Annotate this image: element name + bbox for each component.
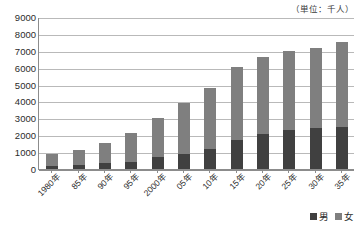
bar-segment-male (204, 149, 216, 169)
x-tick-mark (315, 170, 316, 173)
chart-legend: 男女 (310, 209, 354, 223)
x-tick-mark (341, 170, 342, 173)
bar-segment-male (310, 128, 322, 169)
x-tick-mark (288, 170, 289, 173)
x-tick-mark (262, 170, 263, 173)
bar-segment-male (125, 162, 137, 169)
y-tick-label: 9000 (15, 13, 36, 23)
y-tick-label: 2000 (15, 131, 36, 141)
bar-group (231, 67, 243, 169)
x-axis-labels: 1980年85年90年95年2000年05年10年15年20年25年30年35年 (38, 172, 354, 212)
x-tick-mark (157, 170, 158, 173)
y-tick-label: 8000 (15, 30, 36, 40)
unit-caption: （単位：千人） (291, 2, 354, 14)
bar-segment-female (283, 51, 295, 130)
y-tick-label: 0 (31, 165, 36, 175)
bar-segment-male (283, 130, 295, 169)
legend-swatch-icon (335, 213, 342, 220)
bar-segment-female (257, 57, 269, 134)
legend-label: 女 (344, 209, 354, 223)
legend-swatch-icon (310, 213, 317, 220)
bar-group (204, 88, 216, 169)
y-tick-label: 6000 (15, 64, 36, 74)
bar-segment-female (310, 48, 322, 128)
plot-area (38, 18, 354, 170)
bar-segment-male (231, 140, 243, 169)
x-tick-mark (183, 170, 184, 173)
bar-segment-male (73, 165, 85, 169)
x-tick-mark (236, 170, 237, 173)
gridline-0 (39, 170, 354, 171)
y-tick-label: 3000 (15, 115, 36, 125)
bar-segment-female (73, 150, 85, 165)
bar-group (283, 51, 295, 169)
bar-segment-male (99, 163, 111, 169)
bar-segment-female (336, 42, 348, 126)
y-tick-label: 4000 (15, 98, 36, 108)
legend-item: 女 (335, 209, 354, 223)
bar-segment-male (336, 127, 348, 169)
bar-group (257, 57, 269, 169)
bar-group (336, 42, 348, 169)
bar-segment-female (46, 154, 58, 165)
bars-layer (39, 18, 354, 169)
bar-segment-male (46, 166, 58, 169)
bar-group (125, 133, 137, 169)
x-tick-mark (209, 170, 210, 173)
legend-item: 男 (310, 209, 329, 223)
legend-label: 男 (319, 209, 329, 223)
bar-segment-female (99, 143, 111, 163)
bar-segment-female (204, 88, 216, 149)
bar-segment-male (257, 134, 269, 169)
bar-group (152, 118, 164, 169)
x-tick-mark (130, 170, 131, 173)
bar-segment-female (152, 118, 164, 157)
bar-segment-female (178, 103, 190, 154)
y-tick-label: 5000 (15, 81, 36, 91)
bar-segment-male (178, 154, 190, 169)
bar-group (178, 103, 190, 169)
bar-group (46, 154, 58, 169)
x-tick-mark (78, 170, 79, 173)
x-tick-label: 1980年 (14, 172, 63, 221)
x-tick-mark (104, 170, 105, 173)
y-tick-label: 7000 (15, 47, 36, 57)
bar-group (310, 48, 322, 169)
bar-group (73, 150, 85, 169)
bar-segment-female (125, 133, 137, 162)
bar-chart: （単位：千人） 01000200030004000500060007000800… (0, 0, 360, 227)
bar-segment-female (231, 67, 243, 140)
y-axis-labels: 0100020003000400050006000700080009000 (0, 0, 36, 170)
y-tick-label: 1000 (15, 148, 36, 158)
bar-group (99, 143, 111, 169)
bar-segment-male (152, 157, 164, 169)
x-tick-mark (51, 170, 52, 173)
